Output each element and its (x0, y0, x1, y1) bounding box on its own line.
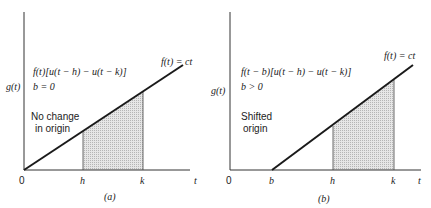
shaded-region-a (83, 91, 143, 170)
shaded-region-b (333, 80, 394, 170)
line-label-a: f(t) = ct (161, 57, 192, 67)
origin-tick-a: 0 (19, 176, 25, 186)
line-label-b: f(t) = ct (384, 51, 415, 61)
diagram-canvas (0, 0, 431, 208)
caption-a: (a) (104, 192, 116, 202)
caption-b: (b) (318, 194, 330, 204)
h-tick-b: h (330, 176, 335, 186)
origin-tick-b: 0 (226, 176, 232, 186)
note-a-line1: No change (31, 112, 79, 122)
b-tick-b: b (269, 176, 274, 186)
y-axis-label-a: g(t) (6, 82, 20, 92)
h-tick-a: h (80, 176, 85, 186)
k-tick-b: k (391, 176, 395, 186)
k-tick-a: k (140, 176, 144, 186)
expression-a: f(t)[u(t − h) − u(t − k)] (33, 67, 127, 77)
x-axis-label-a: t (194, 176, 197, 186)
expression-b: f(t − b)[u(t − h) − u(t − k)] (241, 67, 351, 77)
condition-b: b > 0 (241, 82, 263, 92)
note-b-line1: Shifted (241, 112, 272, 122)
y-axis-label-b: g(t) (211, 86, 225, 96)
condition-a: b = 0 (33, 82, 55, 92)
note-a-line2: in origin (35, 124, 70, 134)
x-axis-label-b: t (418, 176, 421, 186)
note-b-line2: origin (243, 124, 267, 134)
